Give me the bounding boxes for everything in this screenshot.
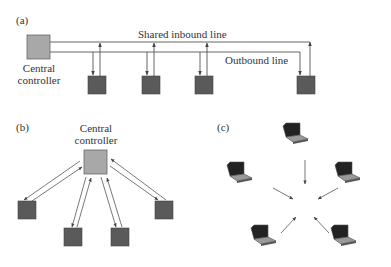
central-controller-label-a: Central controller	[14, 63, 64, 86]
controller-label-line1: Central	[14, 63, 64, 74]
station-box	[297, 76, 315, 94]
panel-b-label: (b)	[16, 122, 29, 133]
station-box	[64, 228, 82, 246]
central-controller-box	[84, 150, 107, 174]
central-controller-label-b: Central controller	[70, 123, 122, 146]
laptop-icon	[251, 225, 276, 246]
controller-label-line2: controller	[14, 75, 64, 86]
laptop-icon	[335, 162, 360, 183]
station-box	[111, 228, 129, 246]
laptop-icon	[227, 162, 252, 183]
controller-label-line2: controller	[70, 135, 122, 146]
controller-label-line1: Central	[70, 123, 122, 134]
panel-c-wireless-network	[227, 123, 360, 246]
station-box	[18, 201, 36, 219]
panel-c-label: (c)	[217, 122, 229, 133]
diagram-canvas	[0, 0, 391, 267]
station-box	[142, 76, 160, 94]
laptop-icon	[283, 123, 308, 144]
central-controller-box	[27, 35, 50, 59]
panel-a-label: (a)	[16, 15, 28, 26]
panel-b-star-network	[18, 150, 173, 246]
station-box	[88, 76, 106, 94]
station-box	[195, 76, 213, 94]
station-box	[155, 201, 173, 219]
laptop-icon	[331, 225, 356, 246]
outbound-line-label: Outbound line	[225, 55, 288, 66]
shared-inbound-line-label: Shared inbound line	[138, 29, 227, 40]
